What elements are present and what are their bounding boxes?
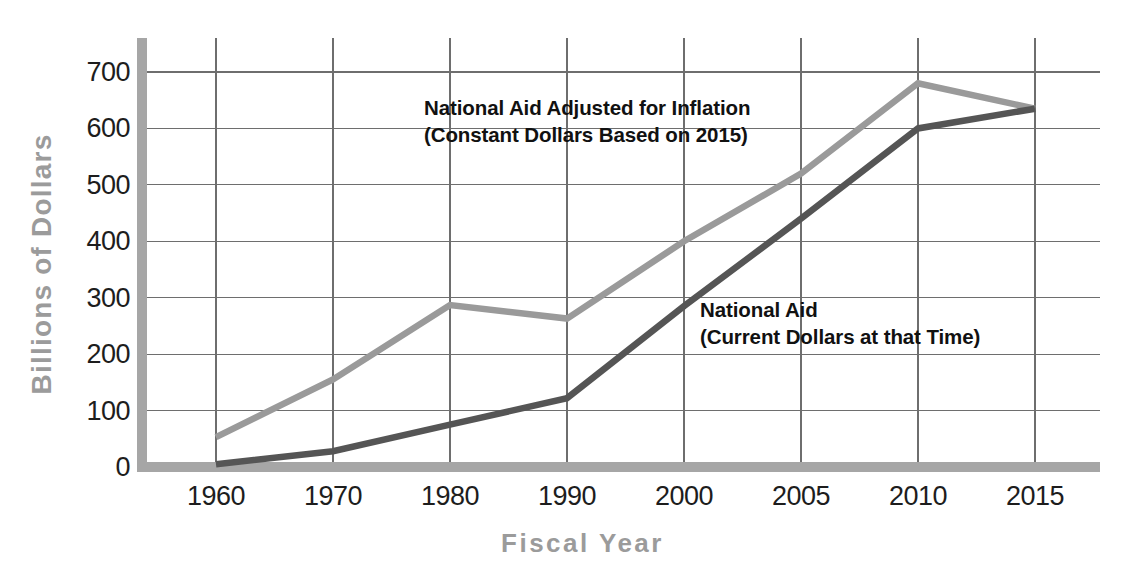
line-chart: 0100200300400500600700 19601970198019902…: [0, 0, 1125, 578]
x-tick-label-2005: 2005: [741, 481, 861, 512]
y-tick-label-400: 400: [60, 226, 130, 257]
y-tick-label-0: 0: [60, 452, 130, 483]
x-tick-label-2000: 2000: [624, 481, 744, 512]
x-tick-label-2010: 2010: [858, 481, 978, 512]
series-annotation-current: National Aid (Current Dollars at that Ti…: [700, 297, 980, 350]
y-tick-label-300: 300: [60, 282, 130, 313]
series-annotation-current-line1: National Aid: [700, 297, 980, 324]
series-annotation-current-line2: (Current Dollars at that Time): [700, 324, 980, 351]
y-tick-label-500: 500: [60, 169, 130, 200]
y-tick-label-600: 600: [60, 113, 130, 144]
y-tick-label-200: 200: [60, 339, 130, 370]
x-axis-title: Fiscal Year: [0, 528, 1125, 559]
y-tick-label-700: 700: [60, 57, 130, 88]
x-tick-label-2015: 2015: [975, 481, 1095, 512]
x-tick-label-1990: 1990: [507, 481, 627, 512]
series-annotation-adjusted-line2: (Constant Dollars Based on 2015): [424, 122, 750, 149]
y-axis-tick-labels: 0100200300400500600700: [52, 0, 130, 578]
x-tick-label-1970: 1970: [273, 481, 393, 512]
series-annotation-adjusted-line1: National Aid Adjusted for Inflation: [424, 95, 750, 122]
x-tick-label-1980: 1980: [390, 481, 510, 512]
y-axis-spine: [137, 38, 147, 472]
x-axis-spine: [137, 462, 1100, 472]
y-axis-title: Billions of Dollars: [26, 74, 58, 454]
y-tick-label-100: 100: [60, 395, 130, 426]
series-annotation-adjusted: National Aid Adjusted for Inflation (Con…: [424, 95, 750, 148]
x-tick-label-1960: 1960: [156, 481, 276, 512]
